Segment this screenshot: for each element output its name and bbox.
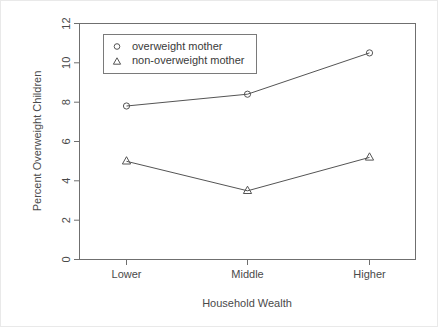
y-axis-tick-labels: 0 2 4 6 8 10 12 bbox=[60, 17, 72, 262]
series-non-overweight-mother-line bbox=[127, 157, 370, 190]
x-axis-ticks bbox=[127, 260, 370, 266]
chart-legend: overweight mother non-overweight mother bbox=[104, 35, 257, 74]
line-chart-plot: 0 2 4 6 8 10 12 Percent Overweight Child… bbox=[1, 1, 438, 327]
y-tick-label-10: 10 bbox=[60, 57, 72, 69]
triangle-marker-icon bbox=[365, 153, 373, 160]
x-tick-label-lower: Lower bbox=[112, 268, 142, 280]
y-tick-label-6: 6 bbox=[60, 138, 72, 144]
x-tick-label-middle: Middle bbox=[231, 268, 263, 280]
y-tick-label-12: 12 bbox=[60, 17, 72, 29]
y-tick-label-8: 8 bbox=[60, 99, 72, 105]
y-axis-label: Percent Overweight Children bbox=[31, 71, 43, 212]
legend-item-label-overweight-mother: overweight mother bbox=[132, 40, 223, 52]
chart-figure: 0 2 4 6 8 10 12 Percent Overweight Child… bbox=[0, 0, 438, 327]
x-axis-label: Household Wealth bbox=[202, 297, 292, 309]
series-non-overweight-mother bbox=[122, 153, 373, 194]
triangle-marker-icon bbox=[122, 157, 130, 164]
y-tick-label-4: 4 bbox=[60, 178, 72, 184]
y-tick-label-0: 0 bbox=[60, 256, 72, 262]
y-axis-ticks bbox=[74, 24, 80, 260]
x-axis-tick-labels: Lower Middle Higher bbox=[112, 268, 387, 280]
y-tick-label-2: 2 bbox=[60, 217, 72, 223]
legend-item-label-non-overweight-mother: non-overweight mother bbox=[132, 54, 245, 66]
x-tick-label-higher: Higher bbox=[353, 268, 386, 280]
